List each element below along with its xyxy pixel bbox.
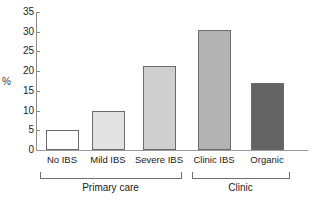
bar-severe-ibs <box>143 66 176 150</box>
group-label-clinic: Clinic <box>228 182 252 193</box>
bar-no-ibs <box>46 130 79 150</box>
category-label-no-ibs: No IBS <box>47 154 77 165</box>
y-axis-tick-label: 20 <box>14 65 34 76</box>
category-label-organic: Organic <box>250 154 283 165</box>
group-label-primary-care: Primary care <box>82 182 139 193</box>
category-label-mild-ibs: Mild IBS <box>90 154 125 165</box>
y-axis-tick-label: 15 <box>14 85 34 96</box>
bar-clinic-ibs <box>198 30 231 150</box>
bracket-primary-care <box>40 172 182 179</box>
bracket-clinic <box>192 172 290 179</box>
x-axis-line <box>36 150 308 151</box>
y-axis-tick-label: 10 <box>14 105 34 116</box>
bar-mild-ibs <box>92 111 125 150</box>
y-axis-tick-label: 0 <box>14 144 34 155</box>
y-axis-tick-label: 5 <box>14 124 34 135</box>
y-axis-tick-label: 35 <box>14 6 34 17</box>
bar-chart: % 05101520253035 No IBSMild IBSSevere IB… <box>0 0 314 208</box>
y-axis-label: % <box>2 76 11 87</box>
bar-organic <box>251 83 284 150</box>
plot-area <box>37 12 305 150</box>
category-label-severe-ibs: Severe IBS <box>135 154 183 165</box>
y-axis-tick-label: 25 <box>14 45 34 56</box>
y-axis-tick-label: 30 <box>14 26 34 37</box>
category-label-clinic-ibs: Clinic IBS <box>193 154 234 165</box>
